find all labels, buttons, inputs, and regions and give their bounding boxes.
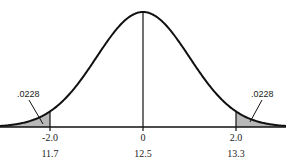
z-tick-label: 2.0 — [230, 132, 243, 143]
z-tick-label: 0 — [141, 132, 146, 143]
raw-tick-label: 12.5 — [134, 148, 152, 159]
right-tail-area-label: .0228 — [251, 89, 274, 99]
raw-tick-label: 11.7 — [41, 148, 58, 159]
z-tick-label: -2.0 — [42, 132, 58, 143]
left-tail-area-label: .0228 — [17, 89, 40, 99]
raw-tick-label: 13.3 — [227, 148, 245, 159]
right-tail-pointer — [250, 100, 262, 122]
normal-distribution-diagram: .0228 .0228 -2.011.7012.52.013.3 — [0, 0, 286, 165]
